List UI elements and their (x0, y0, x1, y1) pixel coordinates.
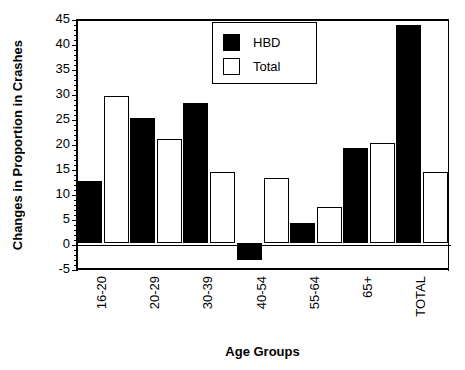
y-axis-tick-label: 0 (40, 236, 70, 251)
x-axis-title: Age Groups (76, 344, 449, 359)
x-axis-tick-label: 55-64 (307, 276, 322, 309)
y-axis-title: Changes in Proportion in Crashes (0, 0, 34, 290)
y-axis-tick-label: 15 (40, 161, 70, 176)
y-axis-tick-label: 30 (40, 86, 70, 101)
legend-entry-hbd: HBD (223, 30, 316, 54)
y-axis-tick-label: 20 (40, 136, 70, 151)
legend-label-hbd: HBD (253, 35, 280, 50)
x-axis-tick-label: 30-39 (200, 276, 215, 309)
y-axis-tick-label: 40 (40, 36, 70, 51)
bar-total (423, 172, 448, 243)
y-axis-tick-label: 10 (40, 186, 70, 201)
x-axis-tick-label: 65+ (360, 276, 375, 298)
y-axis-tick-label: 5 (40, 211, 70, 226)
y-axis-title-text: Changes in Proportion in Crashes (10, 40, 25, 250)
y-axis-tick-mark (72, 270, 78, 271)
chart-legend: HBD Total (212, 22, 317, 84)
y-axis-tick-label: 25 (40, 111, 70, 126)
y-axis-tick-label: 35 (40, 61, 70, 76)
legend-swatch-total-icon (223, 58, 240, 75)
legend-entry-total: Total (223, 54, 316, 78)
x-axis-tick-label: 16-20 (94, 276, 109, 309)
legend-label-total: Total (253, 59, 280, 74)
y-axis-tick-label: -5 (40, 261, 70, 276)
legend-swatch-hbd-icon (223, 34, 240, 51)
x-axis-tick-label: 20-29 (147, 276, 162, 309)
x-axis-tick-label: 40-54 (254, 276, 269, 309)
y-axis-tick-label: 45 (40, 11, 70, 26)
x-axis-tick-label: TOTAL (413, 276, 428, 317)
bar-chart: Changes in Proportion in Crashes -505101… (0, 0, 465, 370)
bar-hbd (396, 25, 421, 244)
